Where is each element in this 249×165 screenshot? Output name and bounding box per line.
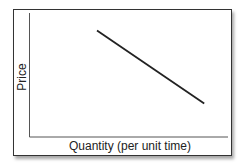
demand-curve [97,30,204,103]
y-axis-label: Price [15,63,29,90]
x-axis-label: Quantity (per unit time) [69,139,191,153]
